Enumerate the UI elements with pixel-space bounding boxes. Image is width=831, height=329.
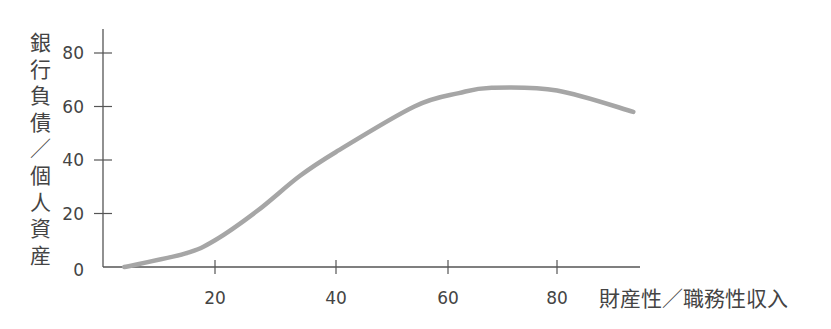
y-tick-label: 60 — [62, 97, 84, 117]
y-axis-title-char: 債 — [30, 111, 51, 135]
x-tick-label: 60 — [437, 288, 459, 308]
y-axis-title-char: 資 — [30, 217, 51, 241]
axes — [94, 29, 640, 274]
y-axis-title-char: 人 — [30, 191, 51, 215]
y-axis-title-char: 個 — [30, 164, 51, 188]
x-tick-label: 40 — [325, 288, 347, 308]
y-axis-title-char: ／ — [30, 137, 51, 161]
y-axis-title-char: 行 — [30, 58, 51, 82]
y-tick-label: 20 — [62, 204, 84, 224]
y-axis-title-char: 産 — [30, 244, 51, 268]
x-tick-label: 80 — [546, 288, 568, 308]
y-tick-label: 40 — [62, 150, 84, 170]
series-line — [124, 87, 633, 267]
y-tick-label: 80 — [62, 43, 84, 63]
data-series — [124, 87, 633, 267]
y-axis-title-char: 銀 — [30, 31, 51, 55]
line-chart: 02040608020406080銀行負債／個人資産財産性／職務性収入 — [0, 0, 831, 329]
y-axis-title-char: 負 — [30, 84, 51, 108]
axis-labels: 02040608020406080銀行負債／個人資産財産性／職務性収入 — [30, 31, 789, 311]
y-tick-label: 0 — [73, 260, 84, 280]
x-tick-label: 20 — [204, 288, 226, 308]
x-axis-title: 財産性／職務性収入 — [599, 287, 788, 311]
